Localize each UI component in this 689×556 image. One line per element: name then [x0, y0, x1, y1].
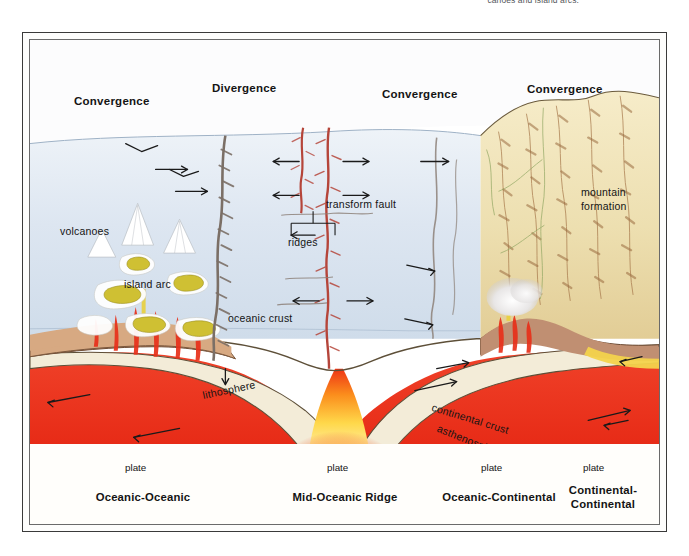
- plate-label-4: plate: [583, 462, 604, 473]
- figure-inner-frame: Convergence Divergence Convergence Conve…: [29, 39, 660, 525]
- label-convergence-right: Convergence: [527, 83, 603, 95]
- label-volcanoes: volcanoes: [60, 225, 109, 237]
- figure-outer-frame: Convergence Divergence Convergence Conve…: [22, 32, 667, 532]
- footer-continental-continental-line-2: Continental: [571, 498, 635, 510]
- label-convergence-left: Convergence: [74, 95, 150, 107]
- footer-band: plate plate plate plate Oceanic-Oceanic …: [30, 444, 659, 524]
- plate-label-3: plate: [481, 462, 502, 473]
- footer-oceanic-continental: Oceanic-Continental: [442, 491, 556, 503]
- label-ridges: ridges: [288, 236, 318, 248]
- label-oceanic-crust: oceanic crust: [228, 312, 292, 324]
- figure-caption-strip: canoes and island arcs.: [0, 0, 689, 14]
- label-mountain-formation-line-2: formation: [581, 200, 627, 212]
- footer-continental-continental-line-1: Continental-: [569, 484, 637, 496]
- label-transform-fault: transform fault: [326, 198, 396, 210]
- label-divergence: Divergence: [212, 82, 277, 94]
- plate-label-2: plate: [327, 462, 348, 473]
- label-convergence-mid: Convergence: [382, 88, 458, 100]
- label-island-arc: island arc: [124, 278, 171, 290]
- footer-oceanic-oceanic: Oceanic-Oceanic: [96, 491, 191, 503]
- plate-label-1: plate: [125, 462, 146, 473]
- figure-caption-text: canoes and island arcs.: [487, 0, 579, 5]
- footer-mid-oceanic-ridge: Mid-Oceanic Ridge: [292, 491, 397, 503]
- label-mountain-formation-line-1: mountain: [581, 186, 626, 198]
